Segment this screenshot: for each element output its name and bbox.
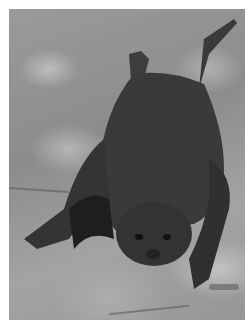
bat-photograph <box>9 9 245 320</box>
bat-silhouette <box>9 9 245 320</box>
